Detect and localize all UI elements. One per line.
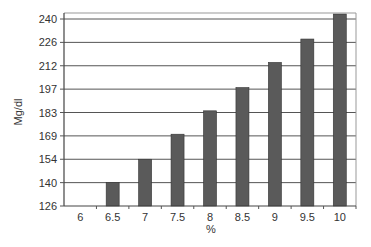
y-tick-label: 212 [39,60,57,72]
x-tick-label: 6 [77,211,83,223]
x-tick-label: 10 [334,211,346,223]
x-tick-label: 7.5 [170,211,185,223]
x-axis-ticks: 66.577.588.599.510 [77,206,356,223]
x-tick-label: 6.5 [105,211,120,223]
bar [139,159,152,206]
y-tick-label: 226 [39,36,57,48]
y-tick-label: 126 [39,200,57,212]
y-tick-label: 197 [39,83,57,95]
y-axis-ticks: 126140154169183197212226240 [39,13,64,212]
x-tick-label: 7 [142,211,148,223]
x-tick-label: 9.5 [300,211,315,223]
bar [301,39,314,206]
bar [171,134,184,206]
bar [204,111,217,206]
bar [333,14,346,206]
x-tick-label: 9 [272,211,278,223]
y-tick-label: 240 [39,13,57,25]
y-tick-label: 183 [39,107,57,119]
bar-chart: 126140154169183197212226240 66.577.588.5… [0,0,371,247]
y-axis-title: Mg/dl [12,99,24,126]
x-tick-label: 8 [207,211,213,223]
bar [106,183,119,206]
bar [236,88,249,206]
x-axis-title: % [206,223,216,235]
bar [268,62,281,206]
y-tick-label: 169 [39,130,57,142]
y-tick-label: 154 [39,153,57,165]
y-tick-label: 140 [39,177,57,189]
x-tick-label: 8.5 [235,211,250,223]
